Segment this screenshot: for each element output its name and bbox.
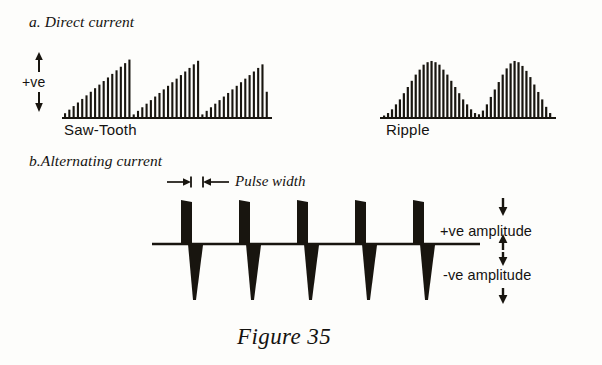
ripple-label: Ripple — [386, 122, 430, 137]
positive-axis-label: +ve — [22, 75, 45, 89]
section-b-heading: b.Alternating current — [29, 153, 162, 169]
section-a-heading: a. Direct current — [29, 14, 134, 30]
figure-caption: Figure 35 — [237, 325, 331, 348]
alternating-current-waveform — [140, 196, 485, 308]
pulse-width-label: Pulse width — [235, 174, 305, 189]
ripple-waveform — [378, 48, 560, 126]
figure-35: a. Direct current +ve Saw-Tooth Ripple b… — [0, 0, 602, 365]
amplitude-arrows-icon — [492, 196, 514, 308]
saw-tooth-waveform — [58, 48, 276, 126]
saw-tooth-label: Saw-Tooth — [64, 122, 137, 137]
pulse-width-dimension-icon — [165, 174, 231, 190]
positive-amplitude-label: +ve amplitude — [440, 224, 532, 239]
negative-amplitude-label: -ve amplitude — [443, 268, 531, 283]
